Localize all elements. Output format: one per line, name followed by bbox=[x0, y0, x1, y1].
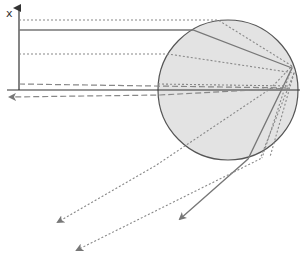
x-axis-label: x bbox=[6, 7, 13, 20]
rainbow-ray-diagram: x bbox=[0, 0, 308, 256]
